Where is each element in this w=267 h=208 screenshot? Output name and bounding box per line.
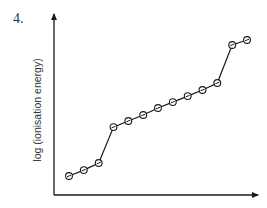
ionisation-energy-chart — [0, 0, 267, 208]
data-series — [66, 37, 251, 180]
